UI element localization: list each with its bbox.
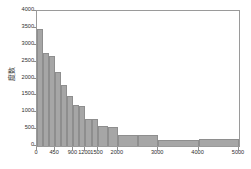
x-axis-tick-mark [198, 147, 199, 151]
histogram-bar [138, 135, 158, 146]
histogram-bar [108, 127, 118, 146]
plot-area [36, 10, 240, 147]
y-axis-tick-mark [32, 111, 36, 112]
x-axis-tick-mark [117, 147, 118, 151]
x-axis-tick-labels: 0450900120015002000300040005000 [0, 150, 251, 162]
x-axis-tick-mark [72, 147, 73, 151]
x-axis-tick-mark [238, 147, 239, 151]
y-axis-tick-mark [32, 10, 36, 11]
x-axis-tick-mark [84, 147, 85, 151]
histogram-chart: 度数 05001000150020002500300035004000 0450… [0, 0, 251, 169]
y-axis-tick-mark [32, 145, 36, 146]
histogram-bar [98, 126, 108, 146]
histogram-bar [118, 135, 138, 146]
y-axis-tick-mark [32, 94, 36, 95]
y-axis-tick-mark [32, 128, 36, 129]
histogram-bar [199, 139, 239, 146]
y-axis-tick-mark [32, 44, 36, 45]
x-axis-tick-mark [97, 147, 98, 151]
y-axis-tick-mark [32, 78, 36, 79]
x-axis-tick-mark [36, 147, 37, 151]
y-axis-tick-mark [32, 61, 36, 62]
x-axis-tick-mark [54, 147, 55, 151]
y-axis-tick-labels: 05001000150020002500300035004000 [12, 10, 34, 147]
x-axis-tick-mark [157, 147, 158, 151]
y-axis-tick-mark [32, 27, 36, 28]
histogram-bar [158, 140, 198, 146]
